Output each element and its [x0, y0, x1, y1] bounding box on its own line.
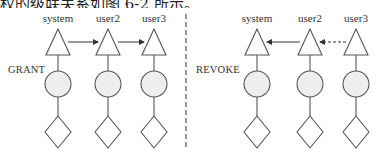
triangle-node	[245, 29, 269, 55]
triangle-node	[46, 29, 70, 55]
user-label: user2	[96, 12, 120, 24]
grant-revoke-diagram: GRANT systemuser2user3 REVOKE systemuser…	[0, 0, 379, 160]
diamond-node	[343, 116, 369, 148]
diamond-node	[95, 116, 121, 148]
revoke-panel: REVOKE systemuser2user3	[196, 12, 369, 148]
user-column-system: system	[242, 12, 273, 148]
circle-node	[95, 71, 121, 97]
triangle-node	[298, 29, 322, 55]
diamond-node	[141, 116, 167, 148]
grant-label: GRANT	[8, 64, 46, 75]
user-column-user2: user2	[297, 12, 323, 148]
user-label: system	[43, 12, 74, 24]
triangle-node	[96, 29, 120, 55]
circle-node	[141, 71, 167, 97]
user-label: user3	[344, 12, 368, 24]
user-label: user3	[142, 12, 166, 24]
circle-node	[45, 71, 71, 97]
user-label: user2	[298, 12, 322, 24]
user-column-user2: user2	[95, 12, 121, 148]
revoke-label: REVOKE	[196, 64, 240, 75]
grant-panel: GRANT systemuser2user3	[8, 12, 167, 148]
circle-node	[343, 71, 369, 97]
user-column-user3: user3	[141, 12, 167, 148]
circle-node	[244, 71, 270, 97]
user-column-user3: user3	[343, 12, 369, 148]
diamond-node	[45, 116, 71, 148]
circle-node	[297, 71, 323, 97]
triangle-node	[142, 29, 166, 55]
triangle-node	[344, 29, 368, 55]
user-label: system	[242, 12, 273, 24]
diamond-node	[297, 116, 323, 148]
user-column-system: system	[43, 12, 74, 148]
diamond-node	[244, 116, 270, 148]
